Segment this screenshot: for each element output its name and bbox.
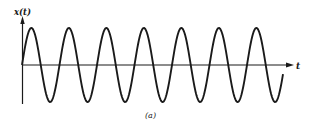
figure-caption: (a) (145, 111, 156, 120)
y-axis-label: x(t) (13, 7, 31, 17)
signal-plot: x(t) t (a) (0, 0, 309, 125)
y-axis-arrow-icon (20, 16, 24, 24)
x-axis-label: t (296, 61, 301, 71)
x-axis-arrow-icon (286, 63, 294, 68)
